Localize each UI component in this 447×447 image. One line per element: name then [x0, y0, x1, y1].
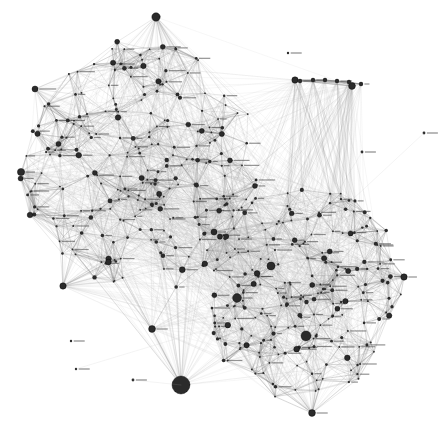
- network-graph-canvas[interactable]: [0, 0, 447, 447]
- network-graph-visualization: [0, 0, 447, 447]
